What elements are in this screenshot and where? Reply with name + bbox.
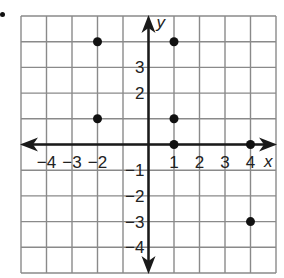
y-tick-label: −4 xyxy=(125,238,144,257)
data-point xyxy=(170,37,179,46)
y-axis-label: y xyxy=(156,13,167,32)
data-point xyxy=(170,114,179,123)
data-point xyxy=(246,140,255,149)
data-point xyxy=(246,217,255,226)
y-tick-label: −2 xyxy=(125,187,144,206)
data-point xyxy=(170,140,179,149)
y-tick-label: −3 xyxy=(125,213,144,232)
data-point xyxy=(93,114,102,123)
x-tick-label: 4 xyxy=(246,153,255,172)
y-tick-label: 3 xyxy=(135,58,144,77)
x-tick-label: −3 xyxy=(62,153,81,172)
x-tick-label: 3 xyxy=(220,153,229,172)
x-tick-label: −2 xyxy=(88,153,107,172)
y-tick-label: −1 xyxy=(125,161,144,180)
x-tick-label: 1 xyxy=(169,153,178,172)
x-tick-label: −4 xyxy=(37,153,56,172)
x-axis-label: x xyxy=(263,152,273,171)
x-tick-label: 2 xyxy=(195,153,204,172)
data-point xyxy=(93,37,102,46)
coordinate-plane: xy−4−3−2123432−1−2−3−4 xyxy=(0,0,284,278)
y-tick-label: 2 xyxy=(135,84,144,103)
